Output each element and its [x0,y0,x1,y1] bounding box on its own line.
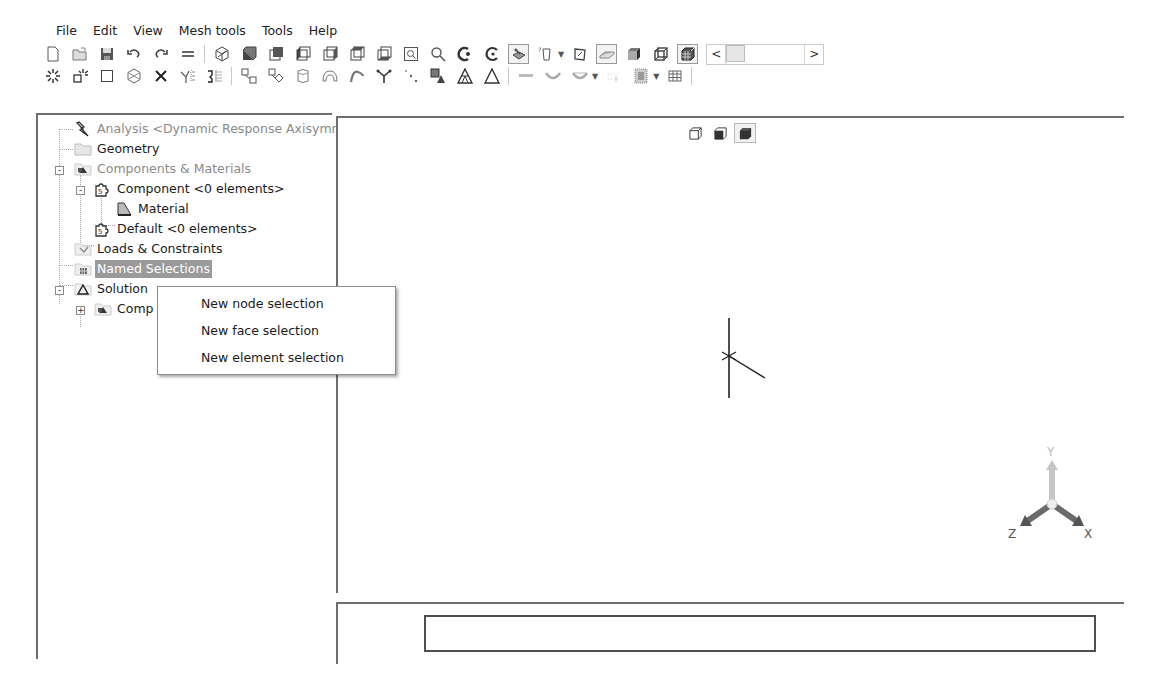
menu-edit[interactable]: Edit [85,22,125,40]
bottom-view-button[interactable] [373,44,394,64]
slider-left-arrow[interactable]: < [707,47,725,61]
mesh-grid-button[interactable] [677,44,698,64]
curve-icon [349,68,365,84]
menu-item-new-element-selection[interactable]: New element selection [158,344,395,371]
equals-icon [180,46,196,62]
node-burst-icon [45,68,61,84]
triangle-mesh-button[interactable] [454,66,475,86]
square-button[interactable] [96,66,117,86]
tree-node-geometry[interactable]: Geometry [74,139,161,159]
coordinate-triad: Y X Z [1002,442,1102,552]
connect-diamond-button[interactable] [265,66,286,86]
spring-button[interactable] [542,66,563,86]
display-style-button[interactable] [508,44,529,64]
selection-filter-dropdown[interactable]: ▼ [558,50,564,59]
tree-node-material[interactable]: Material [115,199,191,219]
curve-button[interactable] [346,66,367,86]
new-file-button[interactable] [42,44,63,64]
menu-help[interactable]: Help [301,22,346,40]
menu-item-new-node-selection[interactable]: New node selection [158,290,395,317]
mirror-icon [207,68,223,84]
node-burst-button[interactable] [42,66,63,86]
beam-button[interactable] [515,66,536,86]
pan-button[interactable] [481,44,502,64]
top-view-button[interactable] [346,44,367,64]
right-view-button[interactable] [319,44,340,64]
zoom-button[interactable] [427,44,448,64]
split-tree-button[interactable] [177,66,198,86]
wireframe-mode-button[interactable] [684,123,706,143]
menu-tools[interactable]: Tools [254,22,301,40]
selection-filter-button[interactable]: ? [535,44,556,64]
collapse-toggle[interactable]: - [76,186,85,195]
tree-node-named-selections[interactable]: Named Selections [74,259,212,279]
view-slider[interactable]: < > [706,44,824,65]
cylinder-button[interactable] [292,66,313,86]
left-view-button[interactable] [292,44,313,64]
save-button[interactable] [96,44,117,64]
triangle-mesh-icon [457,68,473,84]
branch-button[interactable] [373,66,394,86]
tree-connector [59,149,73,150]
collapse-toggle[interactable]: - [55,286,64,295]
pattern-button[interactable] [630,66,651,86]
node-box-burst-button[interactable] [69,66,90,86]
tree-node-solution[interactable]: Solution [74,279,150,299]
shaded-mode-button[interactable] [734,123,756,143]
wireframe-box-button[interactable] [650,44,671,64]
front-view-button[interactable] [238,44,259,64]
tree-node-components-materials[interactable]: Components & Materials [74,159,253,179]
shaded-cube-icon [738,126,753,141]
menu-item-new-face-selection[interactable]: New face selection [158,317,395,344]
menu-file[interactable]: File [52,22,85,40]
sketch-button[interactable] [569,44,590,64]
connect-nodes-button[interactable] [238,66,259,86]
surface-button[interactable] [596,44,617,64]
model-tree-panel: Analysis <Dynamic Response Axisymr Geome… [36,113,332,659]
cube-wire-button[interactable] [123,66,144,86]
shaded-edges-mode-button[interactable] [709,123,731,143]
tree-node-default[interactable]: 5 Default <0 elements> [94,219,260,239]
components-icon [94,301,112,317]
menu-view[interactable]: View [125,22,171,40]
tree-node-loads-constraints[interactable]: Loads & Constraints [74,239,225,259]
dots-button[interactable] [400,66,421,86]
slider-right-arrow[interactable]: > [805,47,823,61]
tree-node-label: Named Selections [95,260,212,278]
isometric-view-button[interactable] [211,44,232,64]
zoom-box-button[interactable] [400,44,421,64]
slider-thumb[interactable] [726,45,745,62]
layered-shapes-button[interactable] [427,66,448,86]
view-mode-toolbar [684,123,756,143]
dotted-grid-button[interactable] [603,66,624,86]
open-button[interactable] [69,44,90,64]
damper-button[interactable] [569,66,590,86]
undo-button[interactable] [123,44,144,64]
collapse-toggle[interactable]: - [55,166,64,175]
rotate-button[interactable] [454,44,475,64]
tree-node-solution-components[interactable]: Comp [94,299,156,319]
table-icon [667,68,683,84]
equals-button[interactable] [177,44,198,64]
tree-node-component[interactable]: 5 Component <0 elements> [94,179,286,199]
expand-toggle[interactable]: + [76,306,85,315]
solid-block-button[interactable] [623,44,644,64]
menu-mesh-tools[interactable]: Mesh tools [171,22,254,40]
triangle-button[interactable] [481,66,502,86]
top-view-icon [349,46,365,62]
tree-node-label: Comp [115,300,156,318]
output-field[interactable] [424,615,1096,652]
right-view-icon [322,46,338,62]
pattern-dropdown[interactable]: ▼ [653,72,659,81]
redo-button[interactable] [150,44,171,64]
slider-track[interactable] [725,45,805,64]
arch-button[interactable] [319,66,340,86]
new-file-icon [45,46,61,62]
delete-button[interactable] [150,66,171,86]
back-view-button[interactable] [265,44,286,64]
mirror-button[interactable] [204,66,225,86]
graphics-viewport[interactable]: Y X Z [336,116,1124,593]
table-button[interactable] [664,66,685,86]
damper-dropdown[interactable]: ▼ [592,72,598,81]
tree-node-analysis[interactable]: Analysis <Dynamic Response Axisymr [74,119,339,139]
